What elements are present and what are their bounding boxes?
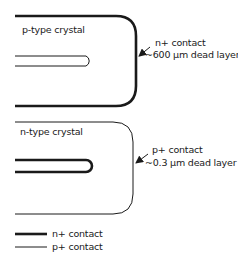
p-plus-dead-layer-label: ~0.3 µm dead layer	[145, 157, 236, 168]
legend-n-plus-label: n+ contact	[52, 228, 103, 239]
p-plus-contact-slot	[15, 56, 89, 66]
n-plus-dead-layer-label: ~600 µm dead layer	[145, 49, 238, 60]
p-plus-contact-label: p+ contact	[152, 144, 203, 155]
p-type-crystal-label: p-type crystal	[22, 24, 85, 35]
n-plus-contact-label: n+ contact	[155, 37, 206, 48]
n-type-crystal-label: n-type crystal	[20, 126, 83, 137]
n-plus-contact-slot	[15, 160, 92, 172]
legend-p-plus-label: p+ contact	[52, 241, 103, 252]
